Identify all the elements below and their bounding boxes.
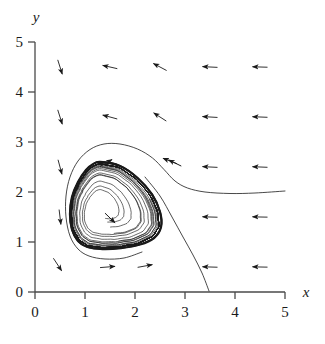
field-arrow-shaft xyxy=(53,258,61,271)
field-arrow-shaft xyxy=(203,167,218,168)
y-axis-tick-labels: 5 4 3 2 1 0 xyxy=(16,34,24,300)
axes-group xyxy=(35,42,285,292)
y-tick-label-2: 2 xyxy=(16,184,24,200)
y-tick-label-5: 5 xyxy=(16,34,24,50)
x-tick-label-0: 0 xyxy=(31,304,39,320)
field-arrow xyxy=(53,258,61,271)
flow-direction-arrow xyxy=(169,160,182,166)
y-tick-label-1: 1 xyxy=(16,234,24,250)
field-arrow xyxy=(58,60,63,74)
x-tick-label-2: 2 xyxy=(131,304,139,320)
field-arrow-shaft xyxy=(153,63,166,70)
field-arrow-shaft xyxy=(203,67,218,68)
field-arrow-shaft xyxy=(58,110,63,124)
x-tick-label-3: 3 xyxy=(181,304,189,320)
field-arrow xyxy=(253,167,268,168)
field-arrow-shaft xyxy=(100,266,115,267)
field-arrow xyxy=(138,265,153,268)
field-arrow-shaft xyxy=(58,160,62,174)
x-tick-label-1: 1 xyxy=(81,304,89,320)
field-arrow xyxy=(154,113,167,121)
field-arrow-shaft xyxy=(103,65,118,68)
outer-trajectory xyxy=(65,143,285,259)
field-arrow-shaft xyxy=(103,115,117,119)
field-arrow xyxy=(103,65,118,68)
y-tick-label-3: 3 xyxy=(16,134,24,150)
y-axis-title: y xyxy=(31,9,40,25)
field-arrow xyxy=(203,117,218,118)
field-arrow xyxy=(58,160,62,174)
field-arrow xyxy=(253,117,268,118)
x-axis-title: x xyxy=(302,284,310,300)
field-arrow-shaft xyxy=(138,265,153,268)
field-arrow xyxy=(100,266,115,267)
x-axis-tick-labels: 0 1 2 3 4 5 xyxy=(31,304,289,320)
field-arrow xyxy=(153,63,166,70)
y-tick-label-4: 4 xyxy=(16,84,24,100)
field-arrow-shaft xyxy=(253,167,268,168)
field-arrow-shaft xyxy=(203,117,218,118)
y-tick-label-0: 0 xyxy=(16,284,24,300)
field-arrow-shaft xyxy=(58,60,63,74)
y-axis-ticks xyxy=(28,42,35,292)
x-tick-label-4: 4 xyxy=(231,304,239,320)
field-arrow-shaft xyxy=(253,117,268,118)
field-arrow xyxy=(103,115,117,119)
trajectory-curves xyxy=(65,143,285,291)
field-arrow xyxy=(59,210,61,225)
field-arrow xyxy=(203,67,218,68)
field-arrow xyxy=(58,110,63,124)
phase-portrait-plot: 5 4 3 2 1 0 0 1 2 3 4 5 y x xyxy=(0,0,325,344)
field-arrow xyxy=(203,167,218,168)
field-arrow-shaft xyxy=(154,113,167,121)
phase-portrait-figure: 5 4 3 2 1 0 0 1 2 3 4 5 y x xyxy=(0,0,325,344)
x-axis-ticks xyxy=(35,292,285,299)
field-arrow-shaft xyxy=(59,210,61,225)
x-tick-label-5: 5 xyxy=(281,304,289,320)
